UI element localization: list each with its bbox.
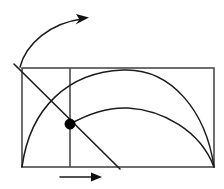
projectile-geometry-figure: Projectile trajectory geometry diagram — [0, 0, 224, 189]
diagram-canvas: Projectile trajectory geometry diagram — [0, 0, 224, 189]
rotation-arrow-shaft — [20, 19, 82, 67]
intersection-point-marker — [65, 119, 75, 129]
bounding-rectangle — [22, 68, 214, 167]
direction-arrow — [60, 173, 102, 182]
inner-trajectory-arc — [70, 108, 214, 167]
rotation-arrow — [20, 14, 89, 67]
direction-arrowhead-icon — [91, 173, 102, 182]
diagonal-straight-line — [14, 64, 120, 169]
outer-trajectory-arc — [22, 70, 214, 167]
